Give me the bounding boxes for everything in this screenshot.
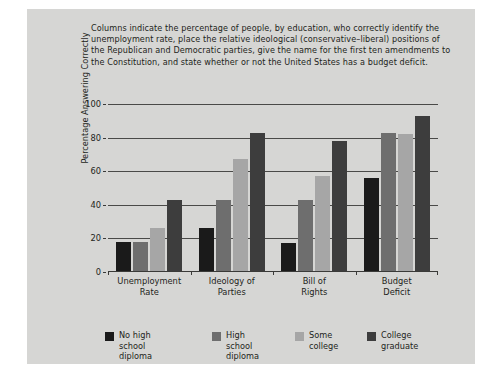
bar bbox=[381, 133, 396, 272]
y-tick-mark bbox=[103, 104, 106, 105]
legend-label: High schooldiploma bbox=[226, 330, 259, 362]
y-tick-label: 40 bbox=[75, 200, 101, 210]
bar bbox=[167, 200, 182, 272]
bar bbox=[216, 200, 231, 272]
legend-label: No highschool diploma bbox=[119, 330, 152, 362]
legend-label: Collegegraduate bbox=[381, 330, 418, 351]
bar-group bbox=[273, 104, 356, 272]
y-tick-mark bbox=[103, 171, 106, 172]
y-tick-label: 60 bbox=[75, 166, 101, 176]
bar-group bbox=[356, 104, 439, 272]
bar bbox=[281, 243, 296, 272]
bar bbox=[250, 133, 265, 272]
x-tick-mark bbox=[273, 271, 274, 275]
y-tick-label: 100 bbox=[75, 99, 101, 109]
legend-swatch-icon bbox=[212, 332, 221, 341]
y-tick-label: 80 bbox=[75, 133, 101, 143]
x-tick-mark bbox=[356, 271, 357, 275]
bar bbox=[364, 178, 379, 272]
x-tick-mark bbox=[437, 271, 438, 275]
x-tick-mark bbox=[108, 271, 109, 275]
bar bbox=[133, 242, 148, 272]
bar-group bbox=[191, 104, 274, 272]
bar-group bbox=[108, 104, 191, 272]
y-tick-mark bbox=[103, 138, 106, 139]
y-axis-ticks: 020406080100 bbox=[73, 104, 101, 272]
plot-area: UnemploymentRateIdeology ofPartiesBill o… bbox=[108, 104, 438, 272]
y-tick-label: 20 bbox=[75, 233, 101, 243]
x-axis-category-label: BudgetDeficit bbox=[337, 276, 457, 297]
bar bbox=[398, 134, 413, 272]
bar bbox=[315, 176, 330, 272]
y-tick-mark bbox=[103, 238, 106, 239]
bar bbox=[415, 116, 430, 272]
bar bbox=[233, 159, 248, 272]
bar bbox=[332, 141, 347, 272]
legend-swatch-icon bbox=[295, 332, 304, 341]
figure-panel: Columns indicate the percentage of peopl… bbox=[27, 9, 475, 364]
chart-legend: No highschool diplomaHigh schooldiplomaS… bbox=[105, 331, 435, 359]
x-axis-ticks bbox=[108, 271, 438, 276]
bar bbox=[116, 242, 131, 272]
bar bbox=[199, 228, 214, 272]
y-tick-mark bbox=[103, 272, 106, 273]
x-tick-mark bbox=[191, 271, 192, 275]
legend-swatch-icon bbox=[105, 332, 114, 341]
bar bbox=[150, 228, 165, 272]
bar bbox=[298, 200, 313, 272]
y-tick-mark bbox=[103, 205, 106, 206]
figure-caption: Columns indicate the percentage of peopl… bbox=[91, 23, 453, 68]
legend-label: Somecollege bbox=[309, 330, 338, 351]
legend-swatch-icon bbox=[367, 332, 376, 341]
